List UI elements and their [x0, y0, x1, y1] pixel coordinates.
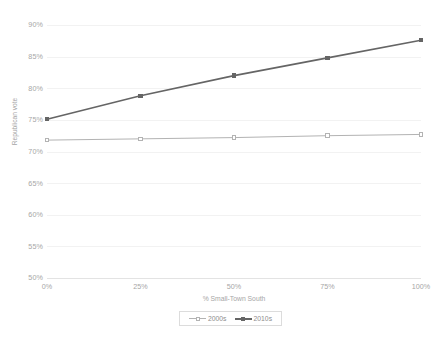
data-point-2010s [45, 117, 50, 122]
data-point-2000s [325, 133, 330, 138]
caption-cutoff [0, 330, 433, 339]
legend-label: 2000s [208, 315, 227, 322]
y-axis-tick-label: 90% [13, 21, 43, 28]
x-axis-tick-label: 75% [308, 283, 348, 291]
x-axis-tick-label: 0% [27, 283, 67, 291]
line-chart: 90%85%80%75%70%65%60%55%50% Republican v… [0, 0, 433, 339]
legend-item-2000s[interactable]: 2000s [189, 315, 227, 322]
y-axis-tick-label: 80% [13, 85, 43, 92]
legend-label: 2010s [254, 315, 273, 322]
x-axis-title: % Small-Town South [47, 294, 421, 303]
data-point-2010s [419, 38, 424, 43]
y-axis-tick-label: 85% [13, 53, 43, 60]
legend-swatch-icon [235, 315, 252, 322]
legend-item-2010s[interactable]: 2010s [235, 315, 273, 322]
data-point-2010s [138, 94, 143, 99]
y-axis-tick-label: 65% [13, 180, 43, 187]
y-axis-tick-label: 75% [13, 116, 43, 123]
data-point-2000s [419, 132, 424, 137]
data-point-2010s [325, 56, 330, 61]
y-axis-title: Republican vote [11, 72, 18, 172]
y-axis-tick-label: 70% [13, 148, 43, 155]
data-point-2010s [232, 73, 237, 78]
x-axis-tick-label: 25% [121, 283, 161, 291]
y-axis-tick-label: 60% [13, 211, 43, 218]
series-line-2010s [47, 40, 421, 119]
x-axis-tick-label: 50% [214, 283, 254, 291]
gridline [47, 278, 421, 279]
y-axis-tick-label: 50% [13, 274, 43, 281]
series-lines [47, 25, 421, 278]
data-point-2000s [138, 137, 143, 142]
chart-legend[interactable]: 2000s2010s [179, 311, 282, 326]
plot-area [47, 25, 421, 278]
data-point-2000s [232, 135, 237, 140]
legend-swatch-icon [189, 315, 206, 322]
data-point-2000s [45, 138, 50, 143]
x-axis-tick-label: 100% [401, 283, 433, 291]
y-axis-tick-label: 55% [13, 243, 43, 250]
